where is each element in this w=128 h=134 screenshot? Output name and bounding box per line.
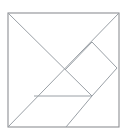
tangram-figure [0, 0, 128, 134]
tangram-diagram [0, 0, 128, 134]
